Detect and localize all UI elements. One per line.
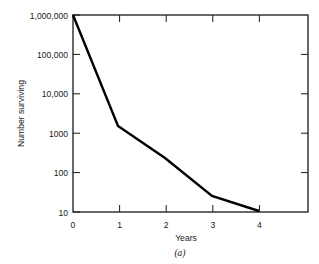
y-axis-title: Number surviving bbox=[16, 80, 26, 147]
y-tick-label-100000: 100,000 bbox=[37, 50, 68, 60]
x-tick-label-1: 1 bbox=[117, 220, 122, 230]
y-axis-ticks-right bbox=[301, 54, 308, 172]
y-axis-ticks-left bbox=[73, 15, 80, 212]
y-tick-label-1000000: 1,000,000 bbox=[30, 11, 68, 21]
x-axis-ticks-top bbox=[120, 15, 260, 22]
y-tick-label-10000: 10,000 bbox=[42, 89, 69, 99]
x-axis-ticks-bottom bbox=[120, 205, 260, 212]
y-tick-label-1000: 1000 bbox=[49, 129, 68, 139]
x-tick-label-4: 4 bbox=[257, 220, 262, 230]
figure-container: 1,000,000 100,000 10,000 1000 100 10 0 1… bbox=[0, 0, 319, 264]
figure-caption: (a) bbox=[174, 248, 185, 259]
survival-curve-chart: 1,000,000 100,000 10,000 1000 100 10 0 1… bbox=[0, 0, 319, 264]
x-axis-title: Years bbox=[175, 233, 197, 243]
x-tick-label-2: 2 bbox=[164, 220, 169, 230]
x-tick-label-3: 3 bbox=[210, 220, 215, 230]
plot-frame bbox=[73, 15, 308, 212]
y-tick-label-10: 10 bbox=[58, 208, 68, 218]
y-tick-label-100: 100 bbox=[54, 168, 69, 178]
x-tick-label-0: 0 bbox=[71, 220, 76, 230]
survival-data-line bbox=[73, 15, 259, 211]
